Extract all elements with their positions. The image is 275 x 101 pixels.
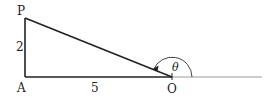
vertex-label-A: A bbox=[16, 81, 26, 95]
side-PO bbox=[25, 18, 172, 77]
vertex-label-P: P bbox=[17, 4, 25, 18]
side-label-PA: 2 bbox=[16, 40, 24, 54]
angle-label-theta: θ bbox=[172, 61, 179, 74]
triangle-diagram: P A O 2 5 θ bbox=[0, 0, 275, 101]
side-label-AO: 5 bbox=[91, 81, 99, 95]
vertex-label-O: O bbox=[167, 82, 177, 96]
